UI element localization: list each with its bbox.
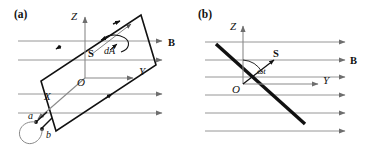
current-arrow-right [106,94,112,98]
panel-a-axes [38,17,133,119]
current-arrow-top [113,21,120,24]
panel-b-angle-label: ωt [257,66,266,76]
figure-canvas: (a) Z Y X O B S dA a b [0,0,366,150]
panel-b-s-label: S [273,48,279,59]
panel-a-origin-label: O [77,76,85,88]
lead-b [42,118,52,128]
panel-a-terminal-b-label: b [46,129,51,140]
lead-a [36,112,47,122]
panel-b-field-label: B [350,55,357,66]
panel-b: (b) Z Y O S ωt B [198,8,357,131]
panel-b-axis-y-label: Y [323,74,331,86]
panel-a-terminal-a-label: a [28,110,33,121]
panel-a-field-label: B [168,37,175,48]
panel-a-s-label: S [88,48,94,59]
panel-a-label: (a) [14,8,28,21]
panel-b-origin-label: O [232,83,240,95]
panel-b-label: (b) [198,8,212,21]
panel-a-axis-x-label: X [43,90,52,102]
panel-a: (a) Z Y X O B S dA a b [14,8,175,144]
external-circuit-loop [19,122,42,144]
panel-b-axis-z-label: Z [230,20,237,32]
panel-a-da-label: dA [104,45,116,56]
current-arrow-left [56,46,61,49]
physics-figure: (a) Z Y X O B S dA a b [0,0,366,150]
panel-a-axis-z-label: Z [71,10,78,22]
